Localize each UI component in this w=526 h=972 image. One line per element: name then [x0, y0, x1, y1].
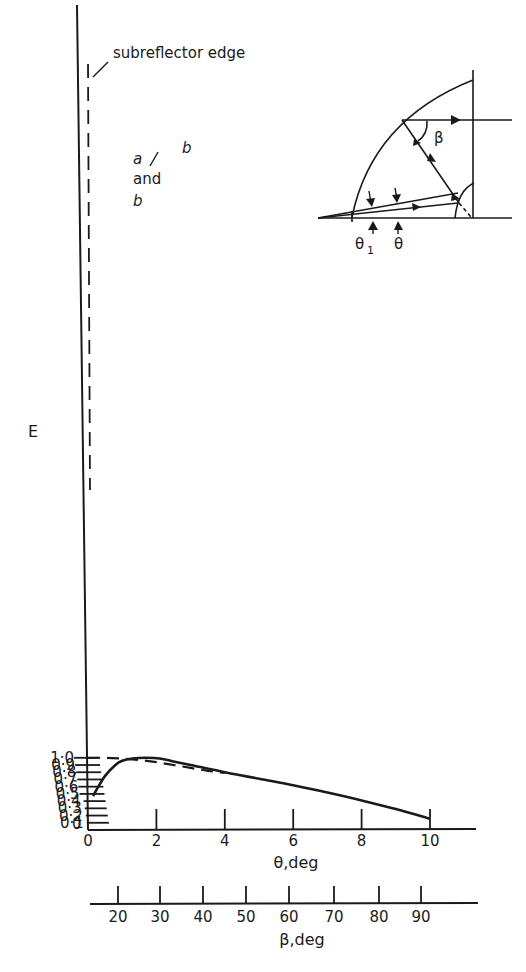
x-axis-line: [88, 829, 476, 830]
beta-tick-label: 60: [279, 908, 298, 926]
x-tick-label: 10: [420, 832, 439, 850]
chart-canvas: 0·10·20·30·40·50·60·70·80·91·0 0246810 2…: [0, 0, 526, 972]
arrow-reflected-ray-icon: [427, 153, 436, 162]
beta-ticks: 2030405060708090: [108, 886, 430, 926]
beta-axis-line: [90, 903, 478, 904]
curve-b-solid: [93, 758, 430, 819]
beta-tick-label: 40: [193, 908, 212, 926]
beta-tick-label: 30: [150, 908, 169, 926]
beta-tick-label: 50: [236, 908, 255, 926]
beta-tick-label: 90: [411, 908, 430, 926]
curve-label-b-upper: b: [182, 139, 192, 157]
subreflector-edge-line: [88, 64, 90, 490]
x-tick-label: 4: [220, 832, 230, 850]
y-axis-line: [77, 5, 88, 830]
arrow-lower-ray-icon: [412, 203, 421, 211]
inset-geometry-diagram: [318, 70, 512, 222]
arrow-output-ray-icon: [451, 115, 461, 125]
inset-theta1-label: θ: [355, 235, 364, 253]
beta-axis-title: β,deg: [279, 930, 324, 949]
curve-label-b-lower: b: [133, 192, 143, 210]
x-tick-label: 0: [83, 832, 93, 850]
x-tick-label: 6: [288, 832, 298, 850]
y-tick-label: 1·0: [50, 749, 74, 767]
inset-arrows: [366, 115, 461, 230]
beta-tick-label: 70: [324, 908, 343, 926]
origin-y-label: 0: [72, 815, 82, 833]
y-axis-title: E: [28, 422, 38, 441]
beta-tick-label: 80: [369, 908, 388, 926]
inset-theta1-subscript: 1: [367, 244, 374, 257]
inset-beta-label: β: [434, 129, 444, 147]
inset-theta-label: θ: [394, 235, 403, 253]
subreflector-edge-label: subreflector edge: [113, 44, 245, 62]
curve-a-leader: [150, 152, 158, 166]
inset-beta-arc: [418, 121, 427, 141]
curve-label-and: and: [133, 170, 161, 188]
x-tick-label: 2: [152, 832, 162, 850]
subreflector-leader-line: [93, 62, 108, 77]
x-axis-title: θ,deg: [273, 853, 318, 872]
inset-reflected-ray: [402, 120, 459, 203]
x-tick-label: 8: [357, 832, 367, 850]
curve-label-a: a: [133, 150, 142, 168]
beta-tick-label: 20: [108, 908, 127, 926]
inset-subreflector-dash: [459, 203, 471, 217]
axes: [77, 5, 478, 904]
